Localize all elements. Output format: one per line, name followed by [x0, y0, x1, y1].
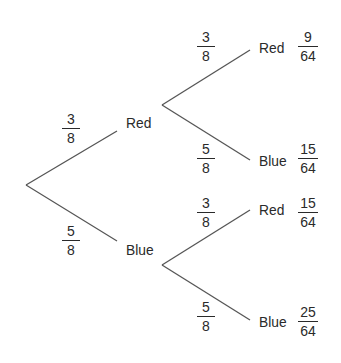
prob-red-red: 38	[197, 30, 215, 63]
prob-root-blue: 58	[62, 224, 80, 257]
prob-red-blue: 58	[197, 142, 215, 175]
joint-red-blue: 1564	[298, 142, 318, 175]
leaf-red-blue: Blue	[259, 153, 287, 168]
prob-root-red: 38	[62, 112, 80, 145]
joint-red-red: 964	[298, 30, 318, 63]
leaf-red-red: Red	[259, 40, 284, 55]
tree-branches	[0, 0, 341, 363]
joint-blue-blue: 2564	[298, 305, 318, 338]
leaf-blue-red: Red	[259, 202, 284, 217]
node-blue: Blue	[126, 242, 154, 257]
node-red: Red	[126, 115, 151, 130]
prob-blue-blue: 58	[197, 300, 215, 333]
joint-blue-red: 1564	[298, 196, 318, 229]
prob-blue-red: 38	[197, 196, 215, 229]
leaf-blue-blue: Blue	[259, 314, 287, 329]
